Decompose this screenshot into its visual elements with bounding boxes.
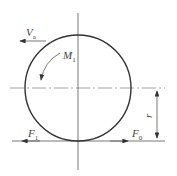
wheel-diagram: Va M1 F1 F0 r [0,0,177,176]
moment-label: M1 [62,49,76,64]
driving-force-label: F0 [131,127,143,142]
radius-label: r [142,113,154,118]
moment-arc-arrow [41,53,60,80]
velocity-label: Va [26,26,37,41]
friction-force-label: F1 [27,127,39,142]
